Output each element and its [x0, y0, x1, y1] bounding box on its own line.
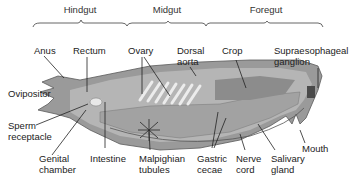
label-genital-chamber: Genital chamber: [39, 153, 76, 175]
section-brackets: [33, 20, 323, 27]
label-salivary-gland: Salivary gland: [271, 153, 305, 175]
label-crop: Crop: [222, 45, 243, 56]
label-gastric-cecae: Gastric cecae: [197, 153, 227, 175]
section-label-hindgut: Hindgut: [64, 4, 97, 15]
section-label-midgut: Midgut: [153, 4, 182, 15]
label-ovipositor: Ovipositor: [8, 88, 51, 99]
label-intestine: Intestine: [90, 153, 126, 164]
label-dorsal-aorta: Dorsal aorta: [177, 45, 204, 67]
label-ovary: Ovary: [128, 45, 153, 56]
label-nerve-cord: Nerve cord: [236, 153, 261, 175]
label-rectum: Rectum: [73, 45, 106, 56]
label-supraesophageal-ganglion: Supraesophageal ganglion: [274, 45, 348, 67]
section-label-foregut: Foregut: [250, 4, 283, 15]
label-malpighian-tubules: Malpighian tubules: [139, 153, 185, 175]
label-sperm-receptacle: Sperm receptacle: [8, 120, 52, 142]
label-anus: Anus: [34, 45, 56, 56]
label-mouth: Mouth: [302, 143, 328, 154]
insect-body: [38, 60, 322, 150]
